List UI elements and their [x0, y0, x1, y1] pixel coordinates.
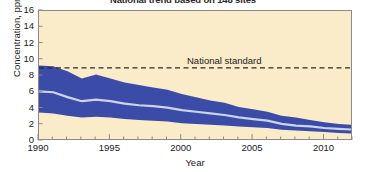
x-tick-label: 1995	[89, 142, 129, 153]
y-tick-label: 16	[4, 5, 34, 14]
x-axis-title: Year	[38, 157, 352, 168]
x-tick-label: 2010	[303, 142, 343, 153]
x-tick-label: 2000	[161, 142, 201, 153]
y-tick-label: 2	[4, 119, 34, 128]
national-standard-label: National standard	[187, 55, 261, 66]
plot-area: National standard	[38, 10, 352, 140]
plot-svg	[39, 11, 352, 140]
chart-figure: National trend based on 148 sites Concen…	[0, 0, 366, 172]
y-tick-label: 10	[4, 54, 34, 63]
y-tick-label: 6	[4, 86, 34, 95]
chart-title: National trend based on 148 sites	[0, 0, 366, 5]
y-tick-label: 14	[4, 21, 34, 30]
x-axis-tick-labels: 19901995200020052010	[0, 142, 366, 156]
y-tick-label: 4	[4, 103, 34, 112]
x-tick-label: 2005	[232, 142, 272, 153]
y-tick-label: 12	[4, 38, 34, 47]
percentile-band	[39, 65, 352, 133]
y-tick-label: 8	[4, 70, 34, 79]
x-tick-label: 1990	[18, 142, 58, 153]
